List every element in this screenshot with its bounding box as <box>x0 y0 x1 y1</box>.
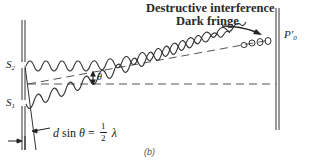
formula-theta: θ <box>79 127 85 139</box>
formula-d: d <box>53 127 59 139</box>
screen-point-label: P′0 <box>284 29 297 42</box>
slit-s2-label: S2 <box>6 59 15 72</box>
fraction-denominator: 2 <box>101 134 106 143</box>
wave-from-s2 <box>26 22 246 71</box>
screen-point-letter: P′ <box>284 28 293 40</box>
double-slit-diagram <box>0 0 310 164</box>
viewing-screen <box>276 8 279 130</box>
formula-lambda: λ <box>112 127 117 139</box>
formula-equals: = <box>88 127 95 139</box>
slit-s1-subscript: 1 <box>12 102 16 110</box>
slit-s1-label: S1 <box>6 97 15 110</box>
path-difference-markers <box>8 128 50 150</box>
figure-caption: (b) <box>144 148 155 157</box>
path-difference-formula: d sin θ = 1 2 λ <box>53 122 117 143</box>
fraction-numerator: 1 <box>101 122 106 131</box>
formula-sin: sin <box>62 127 76 139</box>
interference-loops <box>241 38 271 48</box>
formula-fraction: 1 2 <box>100 122 107 143</box>
slit-s2-subscript: 2 <box>12 64 16 72</box>
theta-label: θ <box>97 72 102 82</box>
destructive-interference-label: Destructive interference <box>146 2 275 15</box>
screen-point-subscript: 0 <box>293 34 297 42</box>
angle-theta-marker <box>91 72 95 84</box>
dark-fringe-label: Dark fringe <box>176 15 239 28</box>
